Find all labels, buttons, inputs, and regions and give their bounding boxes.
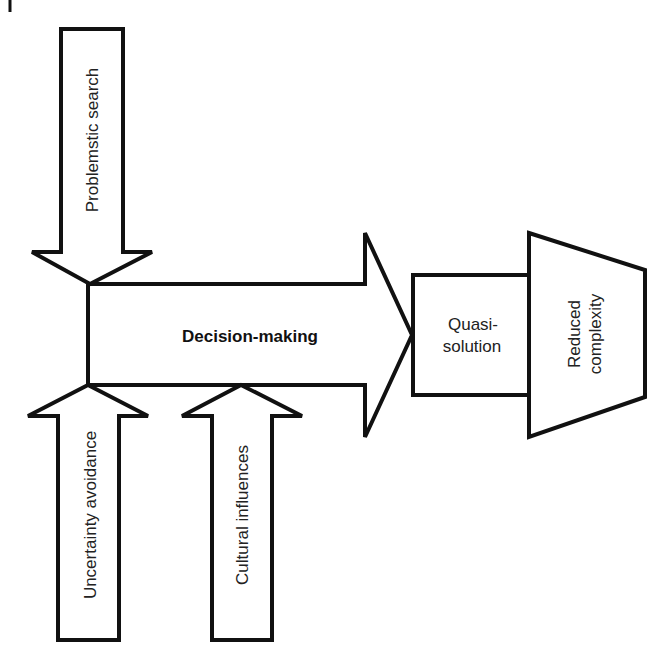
quasi-solution-label-line2: solution <box>443 337 502 356</box>
quasi-solution-label-line1: Quasi- <box>448 315 498 334</box>
reduced-complexity-label-line2: complexity <box>586 293 605 374</box>
reduced-complexity-label-line1: Reduced <box>565 300 584 368</box>
uncertainty-avoidance-label: Uncertainty avoidance <box>81 431 100 599</box>
decision-making-diagram: Problemstic search Uncertainty avoidance… <box>0 0 668 665</box>
cultural-influences-label: Cultural influences <box>233 445 252 585</box>
decision-making-label: Decision-making <box>182 327 318 346</box>
problematic-search-label: Problemstic search <box>83 68 102 213</box>
quasi-solution-box <box>413 275 529 395</box>
